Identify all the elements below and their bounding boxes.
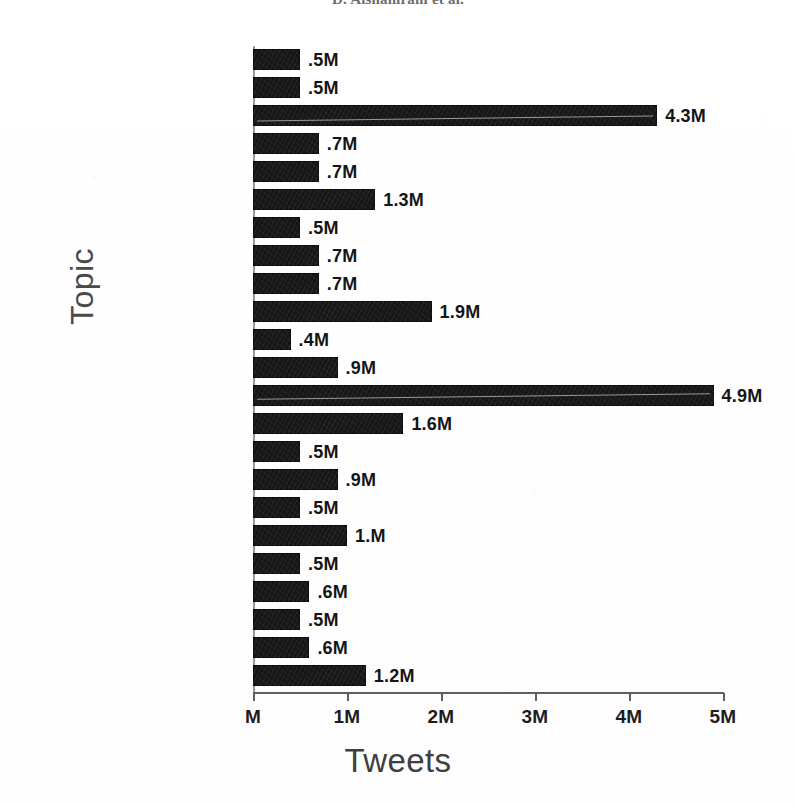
bar: [253, 525, 347, 546]
bar-value-label: .9M: [346, 354, 377, 382]
bar: [253, 665, 366, 686]
bar: [253, 581, 309, 602]
x-tick-label-1: 1M: [317, 706, 377, 728]
x-tick-3: [535, 693, 537, 701]
bar-value-label: 1.3M: [383, 186, 424, 214]
bar-value-label: .5M: [308, 214, 339, 242]
bar: [253, 357, 338, 378]
x-tick-2: [441, 693, 443, 701]
x-tick-label-4: 4M: [599, 706, 659, 728]
bar-value-label: .5M: [308, 550, 339, 578]
bar-value-label: 1.M: [355, 522, 386, 550]
bar: [253, 161, 319, 182]
bar: [253, 609, 300, 630]
bar-value-label: .6M: [317, 634, 348, 662]
bar: [253, 133, 319, 154]
bar-value-label: 1.6M: [411, 410, 452, 438]
bar: [253, 49, 300, 70]
x-axis-line: [253, 692, 724, 694]
bar: [253, 441, 300, 462]
bar: [253, 217, 300, 238]
bar: [253, 77, 300, 98]
bar: [253, 273, 319, 294]
bar-value-label: 1.9M: [440, 298, 481, 326]
chart-plot-area: Weather/Travel.5MTraining/Workout.5MThou…: [253, 46, 723, 694]
bar-value-label: .7M: [327, 130, 358, 158]
x-axis-title: Tweets: [0, 742, 796, 780]
bar: [253, 497, 300, 518]
bar-value-label: .7M: [327, 242, 358, 270]
bar: [253, 245, 319, 266]
bar-value-label: .6M: [317, 578, 348, 606]
running-head: D. Alshamrani et al.: [0, 0, 796, 7]
bar-value-label: .7M: [327, 158, 358, 186]
y-axis-title: Topic: [64, 227, 101, 347]
bar: [253, 301, 432, 322]
bar-value-label: .9M: [346, 466, 377, 494]
x-tick-4: [629, 693, 631, 701]
bar: [253, 637, 309, 658]
bar-value-label: .5M: [308, 494, 339, 522]
x-tick-label-2: 2M: [411, 706, 471, 728]
x-tick-label-0: M: [223, 706, 283, 728]
x-tick-label-3: 3M: [505, 706, 565, 728]
bar-value-label: 4.3M: [665, 102, 706, 130]
bar: [253, 469, 338, 490]
x-tick-5: [723, 693, 725, 701]
bar: [253, 413, 403, 434]
bar: [253, 553, 300, 574]
bar-value-label: 1.2M: [374, 662, 415, 690]
bar-value-label: .4M: [299, 326, 330, 354]
bar-value-label: 4.9M: [722, 382, 763, 410]
bar: [253, 189, 375, 210]
x-tick-1: [347, 693, 349, 701]
bar-value-label: .7M: [327, 270, 358, 298]
bar-value-label: .5M: [308, 606, 339, 634]
bar: [253, 105, 657, 126]
bar-value-label: .5M: [308, 46, 339, 74]
x-tick-label-5: 5M: [693, 706, 753, 728]
bar: [253, 329, 291, 350]
bar: [253, 385, 714, 406]
x-tick-0: [253, 693, 255, 701]
bar-value-label: .5M: [308, 74, 339, 102]
bar-value-label: .5M: [308, 438, 339, 466]
